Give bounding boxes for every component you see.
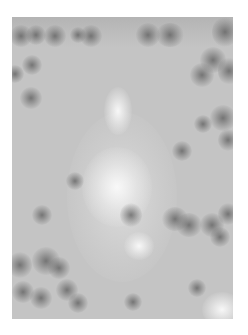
- particle: [120, 203, 142, 227]
- particle: [12, 65, 24, 83]
- particle: [48, 257, 70, 279]
- particle: [44, 25, 66, 47]
- particle: [218, 57, 233, 85]
- particle: [194, 115, 212, 133]
- bright-corner-bottom-right: [202, 292, 233, 319]
- bright-spot-lower: [124, 232, 154, 260]
- particle: [172, 141, 192, 161]
- particle: [22, 55, 42, 75]
- particle: [20, 87, 42, 109]
- particle: [188, 279, 206, 297]
- particle: [12, 252, 32, 278]
- particle: [176, 213, 202, 237]
- particle: [190, 63, 214, 87]
- particle: [80, 25, 102, 47]
- particle: [66, 172, 84, 190]
- particle: [210, 227, 230, 247]
- bright-spot-top: [104, 87, 132, 135]
- particle: [218, 129, 233, 151]
- particle: [30, 287, 52, 309]
- particle: [124, 293, 142, 311]
- particle: [68, 293, 88, 313]
- particle: [212, 17, 233, 47]
- particle: [210, 105, 233, 131]
- particle: [32, 205, 52, 225]
- micrograph-image: [12, 17, 233, 319]
- particle: [156, 23, 184, 47]
- particle: [26, 25, 46, 45]
- particle: [218, 203, 233, 225]
